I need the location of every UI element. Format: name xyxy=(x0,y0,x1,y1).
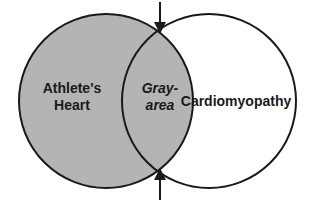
cardiomyopathy-label: Cardiomyopathy xyxy=(181,93,292,109)
athletes-heart-label-line2: Heart xyxy=(54,97,90,113)
athletes-heart-label-line1: Athlete's xyxy=(43,80,102,96)
venn-diagram: Athlete's Heart Gray- area Cardiomyopath… xyxy=(0,0,314,202)
gray-area-label-line1: Gray- xyxy=(142,80,179,96)
gray-area-label-line2: area xyxy=(146,97,175,113)
